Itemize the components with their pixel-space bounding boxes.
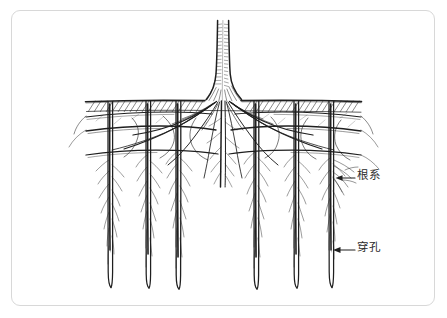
figure-border-frame (11, 10, 435, 306)
annotation-label-perforation: 穿孔 (357, 242, 380, 254)
annotation-label-root-system: 根系 (357, 170, 380, 182)
figure-root: 根系 穿孔 (0, 0, 447, 318)
